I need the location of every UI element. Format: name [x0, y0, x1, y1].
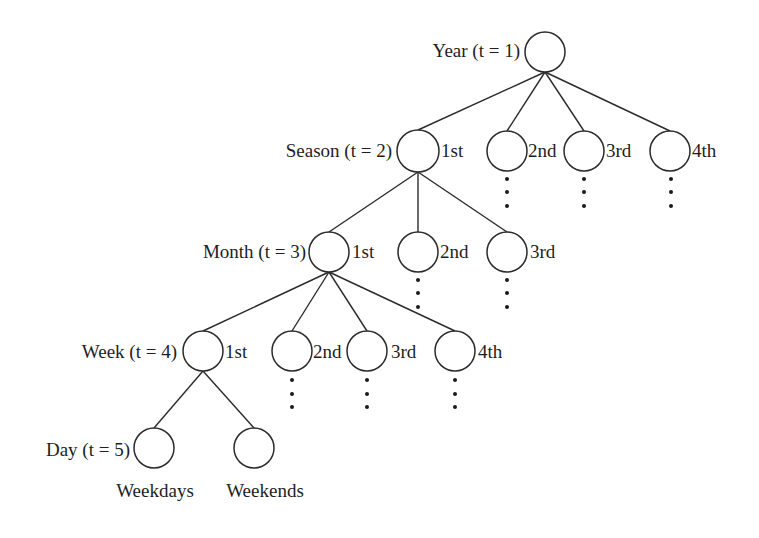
ellipsis-dot-icon: [365, 405, 369, 409]
ellipsis-dot-icon: [505, 278, 509, 282]
ellipsis-season-3: [582, 177, 586, 208]
ellipsis-dot-icon: [453, 405, 457, 409]
ellipsis-dot-icon: [290, 405, 294, 409]
ellipsis-season-2: [505, 177, 509, 208]
level-label-week: Week (t = 4): [82, 341, 177, 363]
time-hierarchy-tree-diagram: 1st2nd3rd4th1st2nd3rd1st2nd3rd4thWeekday…: [0, 0, 759, 538]
ellipsis-season-4: [669, 177, 673, 208]
ellipsis-dot-icon: [453, 378, 457, 382]
node-circle: [234, 428, 274, 468]
node-circle: [347, 331, 387, 371]
ellipsis-month-2: [416, 278, 420, 309]
node-circle: [309, 232, 349, 272]
ellipsis-dot-icon: [582, 204, 586, 208]
level-label-month: Month (t = 3): [203, 241, 306, 263]
node-label: 3rd: [606, 140, 632, 161]
node-week-3: 3rd: [347, 331, 417, 371]
node-label: 4th: [692, 140, 717, 161]
node-circle: [398, 232, 438, 272]
node-circle: [564, 131, 604, 171]
node-label: 1st: [225, 341, 248, 362]
ellipsis-dot-icon: [669, 190, 673, 194]
node-circle: [183, 331, 223, 371]
ellipsis-dot-icon: [505, 177, 509, 181]
node-label: 2nd: [313, 341, 342, 362]
node-circle: [487, 131, 527, 171]
node-label: Weekdays: [116, 480, 194, 501]
ellipsis-dot-icon: [505, 204, 509, 208]
ellipsis-dot-icon: [669, 204, 673, 208]
node-month-3: 3rd: [487, 232, 556, 272]
ellipsis-week-2: [290, 378, 294, 409]
node-day-weekends: Weekends: [226, 428, 304, 501]
node-label: 3rd: [391, 341, 417, 362]
node-label: 3rd: [530, 241, 556, 262]
ellipsis-dot-icon: [505, 291, 509, 295]
ellipsis-dot-icon: [453, 392, 457, 396]
node-season-2: 2nd: [487, 131, 557, 171]
ellipsis-dot-icon: [505, 305, 509, 309]
ellipsis-dot-icon: [505, 190, 509, 194]
level-label-day: Day (t = 5): [46, 439, 130, 461]
ellipsis-dot-icon: [416, 278, 420, 282]
node-week-4: 4th: [435, 331, 503, 371]
ellipsis-dot-icon: [582, 177, 586, 181]
node-season-3: 3rd: [564, 131, 632, 171]
edge-season-1-to-month-3: [418, 172, 507, 232]
level-label-year: Year (t = 1): [433, 40, 520, 62]
ellipsis-dot-icon: [416, 305, 420, 309]
node-week-2: 2nd: [272, 331, 342, 371]
ellipsis-dot-icon: [582, 190, 586, 194]
ellipsis-week-3: [365, 378, 369, 409]
node-circle: [487, 232, 527, 272]
ellipsis-dot-icon: [365, 378, 369, 382]
node-month-2: 2nd: [398, 232, 469, 272]
edge-week-1-to-day-weekdays: [154, 371, 203, 428]
ellipsis-dot-icon: [669, 177, 673, 181]
ellipsis-dot-icon: [290, 392, 294, 396]
ellipsis-month-3: [505, 278, 509, 309]
node-label: Weekends: [226, 480, 304, 501]
ellipsis-dot-icon: [416, 291, 420, 295]
node-label: 4th: [478, 341, 503, 362]
continuation-ellipses: [290, 177, 673, 409]
node-year-root: [525, 32, 565, 72]
level-label-season: Season (t = 2): [286, 140, 392, 162]
ellipsis-dot-icon: [290, 378, 294, 382]
ellipsis-week-4: [453, 378, 457, 409]
node-circle: [134, 428, 174, 468]
tree-nodes: 1st2nd3rd4th1st2nd3rd1st2nd3rd4thWeekday…: [116, 32, 717, 501]
node-season-1: 1st: [397, 130, 464, 172]
node-circle: [525, 32, 565, 72]
node-month-1: 1st: [309, 232, 375, 272]
edge-week-1-to-day-weekends: [203, 371, 254, 428]
node-week-1: 1st: [183, 331, 248, 371]
ellipsis-dot-icon: [365, 392, 369, 396]
node-circle: [650, 131, 690, 171]
node-circle: [397, 130, 439, 172]
node-label: 1st: [352, 241, 375, 262]
node-label: 2nd: [528, 140, 557, 161]
node-label: 1st: [441, 140, 464, 161]
node-label: 2nd: [440, 241, 469, 262]
node-season-4: 4th: [650, 131, 717, 171]
edge-season-1-to-month-1: [329, 172, 418, 232]
node-circle: [272, 331, 312, 371]
node-circle: [435, 331, 475, 371]
